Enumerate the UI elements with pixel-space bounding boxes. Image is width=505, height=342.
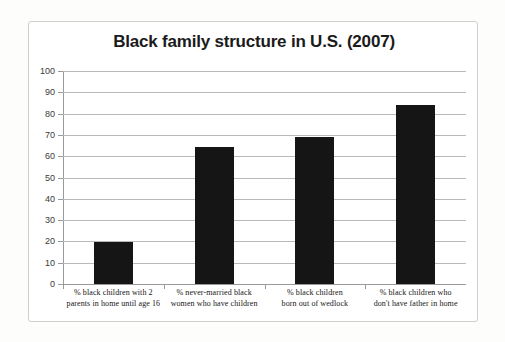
y-axis-label-70: 70 — [45, 130, 55, 140]
x-axis-category-label-3: % black childrenborn out of wedlock — [265, 287, 366, 309]
plot-area: 1009080706050403020100 — [63, 71, 466, 284]
y-axis-label-30: 30 — [45, 215, 55, 225]
y-tick-mark-80 — [58, 114, 63, 115]
x-axis-category-label-3-line-1: % black children — [287, 288, 343, 297]
y-axis-label-10: 10 — [45, 258, 55, 268]
y-tick-mark-20 — [58, 241, 63, 242]
x-axis-category-label-2-line-2: women who have children — [164, 298, 265, 309]
x-axis-category-labels: % black children with 2parents in home u… — [63, 287, 466, 317]
x-axis-category-label-1-line-2: parents in home until age 16 — [63, 298, 164, 309]
y-tick-mark-50 — [58, 178, 63, 179]
x-axis-category-label-4-line-2: don't have father in home — [365, 298, 466, 309]
y-axis-label-0: 0 — [50, 279, 55, 289]
y-tick-mark-40 — [58, 199, 63, 200]
bar-2 — [195, 147, 234, 284]
x-axis-category-label-3-line-2: born out of wedlock — [265, 298, 366, 309]
y-tick-mark-60 — [58, 156, 63, 157]
x-axis-category-label-4: % black children whodon't have father in… — [365, 287, 466, 309]
y-tick-mark-90 — [58, 92, 63, 93]
y-axis-label-100: 100 — [40, 66, 55, 76]
y-axis-label-40: 40 — [45, 194, 55, 204]
y-axis-label-90: 90 — [45, 87, 55, 97]
chart-container: Black family structure in U.S. (2007) 10… — [28, 21, 478, 322]
x-axis-category-label-1: % black children with 2parents in home u… — [63, 287, 164, 309]
x-axis-category-label-4-line-1: % black children who — [380, 288, 452, 297]
bar-4 — [396, 105, 435, 284]
x-axis-category-label-2: % never-married blackwomen who have chil… — [164, 287, 265, 309]
chart-title: Black family structure in U.S. (2007) — [29, 32, 479, 52]
gridline-100 — [63, 71, 466, 72]
x-axis-category-label-1-line-1: % black children with 2 — [74, 288, 153, 297]
x-axis-category-label-2-line-1: % never-married black — [177, 288, 252, 297]
y-tick-mark-100 — [58, 71, 63, 72]
y-axis-label-60: 60 — [45, 151, 55, 161]
bar-1 — [94, 242, 133, 284]
bar-3 — [295, 137, 334, 284]
y-tick-mark-30 — [58, 220, 63, 221]
y-tick-mark-10 — [58, 263, 63, 264]
y-axis-label-80: 80 — [45, 109, 55, 119]
y-axis-label-50: 50 — [45, 173, 55, 183]
y-axis-label-20: 20 — [45, 236, 55, 246]
y-tick-mark-70 — [58, 135, 63, 136]
gridline-90 — [63, 92, 466, 93]
